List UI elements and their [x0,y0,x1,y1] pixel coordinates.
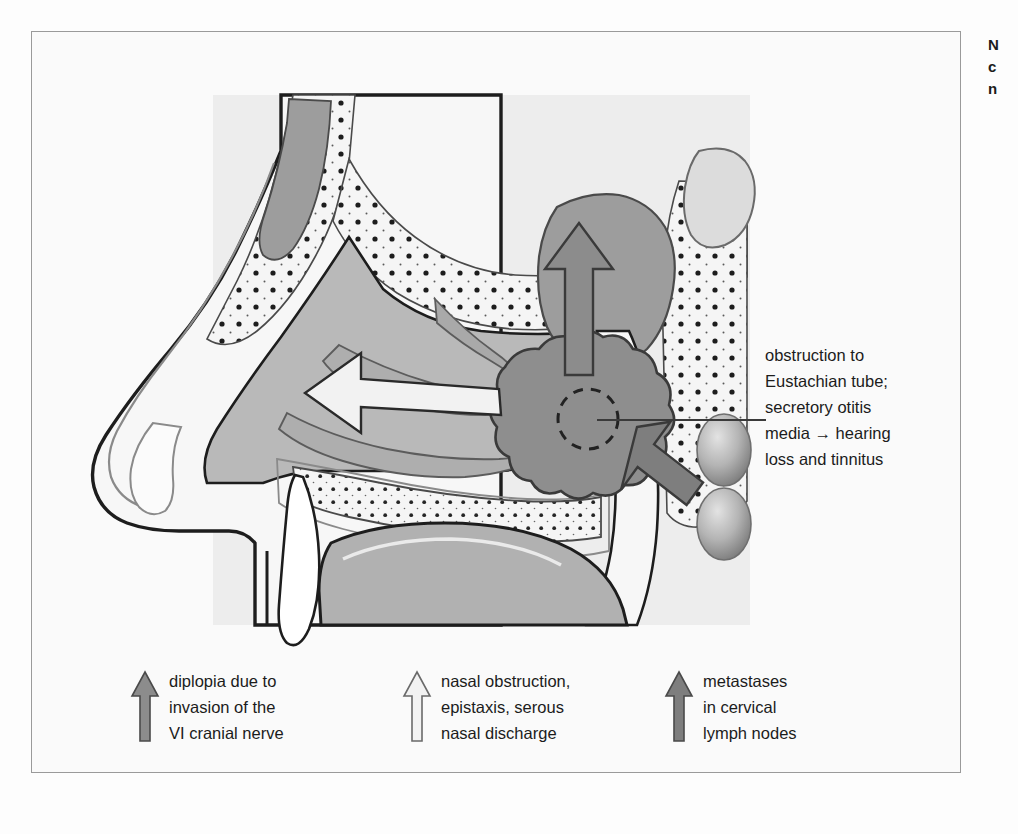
caption-line: N [988,34,1018,56]
legend-line: lymph nodes [703,720,797,746]
legend-diplopia: diplopia due to invasion of the VI crani… [130,668,366,746]
legend-metastases: metastases in cervical lymph nodes [664,668,844,746]
legend-nasal-obstruction: nasal obstruction, epistaxis, serous nas… [402,668,628,746]
legend-line: metastases [703,668,797,694]
legend-line: VI cranial nerve [169,720,284,746]
legend-text: nasal obstruction, epistaxis, serous nas… [441,668,570,746]
annotation-line: Eustachian tube; [765,368,965,394]
figure-legend: diplopia due to invasion of the VI crani… [130,668,890,746]
annotation-line: loss and tinnitus [765,446,965,472]
legend-arrow-up-icon [130,670,160,744]
eustachian-tube-obstruction-callout: obstruction to Eustachian tube; secretor… [765,342,965,472]
legend-text: diplopia due to invasion of the VI crani… [169,668,284,746]
annotation-line: obstruction to [765,342,965,368]
figure-caption: N c n [988,34,1018,100]
legend-line: diplopia due to [169,668,284,694]
cervical-lymph-node-upper [697,414,751,486]
legend-line: nasal discharge [441,720,570,746]
legend-line: nasal obstruction, [441,668,570,694]
legend-line: epistaxis, serous [441,694,570,720]
annotation-line: secretory otitis [765,394,965,420]
annotation-line: media → hearing [765,420,965,446]
legend-line: invasion of the [169,694,284,720]
legend-line: in cervical [703,694,797,720]
legend-text: metastases in cervical lymph nodes [703,668,797,746]
legend-arrow-up-icon [664,670,694,744]
caption-line: c [988,56,1018,78]
caption-line: n [988,78,1018,100]
page-canvas: obstruction to Eustachian tube; secretor… [0,0,1018,834]
cervical-lymph-node-lower [697,488,751,560]
legend-arrow-up-icon [402,670,432,744]
